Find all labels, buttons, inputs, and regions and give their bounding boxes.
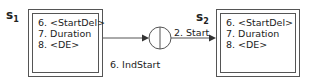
edge-label-start: 2. Start <box>174 27 209 38</box>
arrowhead-into-s2-icon <box>209 35 216 42</box>
edge-label-indstart: 6. IndStart <box>110 59 160 70</box>
arrowhead-into-junction-icon <box>142 35 149 42</box>
